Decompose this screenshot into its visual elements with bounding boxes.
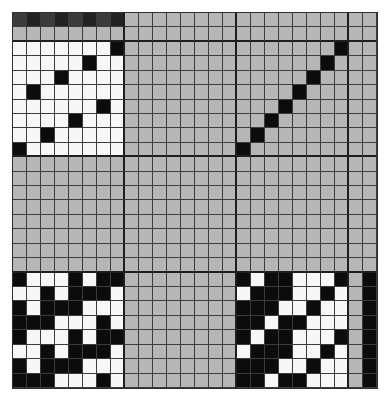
grid-cell-r7-c5[interactable] [83,114,97,128]
grid-cell-r6-c8[interactable] [125,100,139,114]
grid-cell-r12-c5[interactable] [83,186,97,200]
grid-cell-r6-c2[interactable] [41,100,55,114]
grid-cell-r3-c15[interactable] [223,56,237,70]
grid-cell-r24-c0[interactable] [13,359,27,373]
grid-cell-r19-c13[interactable] [195,287,209,301]
grid-cell-r23-c10[interactable] [153,345,167,359]
grid-cell-r17-c13[interactable] [195,258,209,272]
grid-cell-r3-c2[interactable] [41,56,55,70]
grid-cell-r21-c4[interactable] [69,316,83,330]
grid-cell-r8-c19[interactable] [279,128,293,142]
grid-cell-r10-c2[interactable] [41,157,55,171]
grid-cell-r9-c7[interactable] [111,143,125,157]
grid-cell-r5-c19[interactable] [279,85,293,99]
grid-cell-r0-c24[interactable] [349,13,363,27]
grid-cell-r15-c18[interactable] [265,229,279,243]
grid-cell-r2-c17[interactable] [251,42,265,56]
grid-cell-r23-c13[interactable] [195,345,209,359]
grid-cell-r22-c8[interactable] [125,330,139,344]
grid-cell-r0-c22[interactable] [321,13,335,27]
grid-cell-r11-c18[interactable] [265,172,279,186]
grid-cell-r23-c16[interactable] [237,345,251,359]
grid-cell-r4-c8[interactable] [125,71,139,85]
grid-cell-r19-c1[interactable] [27,287,41,301]
grid-cell-r6-c9[interactable] [139,100,153,114]
grid-cell-r18-c9[interactable] [139,273,153,287]
grid-cell-r9-c23[interactable] [335,143,349,157]
grid-cell-r1-c23[interactable] [335,27,349,41]
grid-cell-r6-c13[interactable] [195,100,209,114]
grid-cell-r25-c19[interactable] [279,374,293,388]
grid-cell-r12-c18[interactable] [265,186,279,200]
grid-cell-r22-c17[interactable] [251,330,265,344]
grid-cell-r1-c12[interactable] [181,27,195,41]
grid-cell-r4-c15[interactable] [223,71,237,85]
grid-cell-r14-c4[interactable] [69,215,83,229]
grid-cell-r8-c1[interactable] [27,128,41,142]
grid-cell-r22-c25[interactable] [363,330,377,344]
grid-cell-r8-c15[interactable] [223,128,237,142]
grid-cell-r21-c10[interactable] [153,316,167,330]
grid-cell-r1-c17[interactable] [251,27,265,41]
grid-cell-r3-c8[interactable] [125,56,139,70]
grid-cell-r15-c21[interactable] [307,229,321,243]
grid-cell-r2-c19[interactable] [279,42,293,56]
grid-cell-r9-c18[interactable] [265,143,279,157]
grid-cell-r2-c16[interactable] [237,42,251,56]
grid-cell-r3-c16[interactable] [237,56,251,70]
grid-cell-r2-c14[interactable] [209,42,223,56]
grid-cell-r10-c21[interactable] [307,157,321,171]
grid-cell-r1-c5[interactable] [83,27,97,41]
grid-cell-r16-c23[interactable] [335,244,349,258]
grid-cell-r20-c3[interactable] [55,301,69,315]
grid-cell-r22-c23[interactable] [335,330,349,344]
grid-cell-r9-c11[interactable] [167,143,181,157]
grid-cell-r9-c8[interactable] [125,143,139,157]
grid-cell-r7-c8[interactable] [125,114,139,128]
grid-cell-r12-c4[interactable] [69,186,83,200]
grid-cell-r10-c22[interactable] [321,157,335,171]
grid-cell-r20-c19[interactable] [279,301,293,315]
grid-cell-r5-c4[interactable] [69,85,83,99]
grid-cell-r4-c25[interactable] [363,71,377,85]
grid-cell-r25-c3[interactable] [55,374,69,388]
grid-cell-r13-c14[interactable] [209,200,223,214]
grid-cell-r18-c19[interactable] [279,273,293,287]
grid-cell-r1-c16[interactable] [237,27,251,41]
grid-cell-r16-c5[interactable] [83,244,97,258]
grid-cell-r11-c20[interactable] [293,172,307,186]
grid-cell-r23-c9[interactable] [139,345,153,359]
grid-cell-r11-c22[interactable] [321,172,335,186]
grid-cell-r7-c25[interactable] [363,114,377,128]
grid-cell-r8-c6[interactable] [97,128,111,142]
grid-cell-r14-c15[interactable] [223,215,237,229]
grid-cell-r21-c11[interactable] [167,316,181,330]
grid-cell-r4-c13[interactable] [195,71,209,85]
grid-cell-r10-c6[interactable] [97,157,111,171]
grid-cell-r10-c5[interactable] [83,157,97,171]
grid-cell-r24-c11[interactable] [167,359,181,373]
grid-cell-r17-c24[interactable] [349,258,363,272]
grid-cell-r5-c1[interactable] [27,85,41,99]
grid-cell-r13-c8[interactable] [125,200,139,214]
grid-cell-r25-c24[interactable] [349,374,363,388]
grid-cell-r21-c19[interactable] [279,316,293,330]
grid-cell-r4-c10[interactable] [153,71,167,85]
grid-cell-r25-c1[interactable] [27,374,41,388]
grid-cell-r10-c11[interactable] [167,157,181,171]
grid-cell-r2-c2[interactable] [41,42,55,56]
grid-cell-r18-c16[interactable] [237,273,251,287]
grid-cell-r22-c7[interactable] [111,330,125,344]
grid-cell-r13-c2[interactable] [41,200,55,214]
grid-cell-r12-c19[interactable] [279,186,293,200]
grid-cell-r15-c12[interactable] [181,229,195,243]
grid-cell-r15-c5[interactable] [83,229,97,243]
grid-cell-r23-c18[interactable] [265,345,279,359]
grid-cell-r2-c22[interactable] [321,42,335,56]
grid-cell-r6-c22[interactable] [321,100,335,114]
grid-cell-r20-c24[interactable] [349,301,363,315]
grid-cell-r24-c14[interactable] [209,359,223,373]
grid-cell-r0-c19[interactable] [279,13,293,27]
grid-cell-r12-c20[interactable] [293,186,307,200]
grid-cell-r23-c1[interactable] [27,345,41,359]
